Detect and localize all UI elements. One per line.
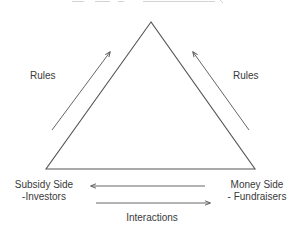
rules-left-label: Rules: [30, 70, 56, 82]
rules-right-arrow: [193, 52, 249, 130]
money-side-title: Money Side: [222, 179, 292, 191]
subsidy-side-label: Subsidy Side -Investors: [8, 179, 80, 203]
subsidy-side-subtitle: -Investors: [8, 191, 80, 203]
interactions-label: Interactions: [110, 212, 194, 224]
clipped-heading-strokes: [72, 0, 223, 3]
money-side-label: Money Side - Fundraisers: [222, 179, 292, 203]
money-side-subtitle: - Fundraisers: [222, 191, 292, 203]
subsidy-side-title: Subsidy Side: [8, 179, 80, 191]
rules-right-label: Rules: [233, 70, 259, 82]
